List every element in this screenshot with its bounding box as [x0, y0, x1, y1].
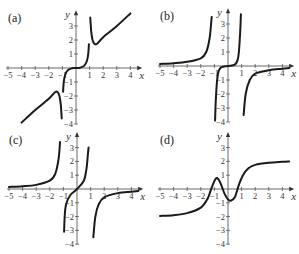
figure-canvas: −5−4−3−2−11234−4−3−2−1123xy(a) −5−4−3−2−…	[0, 0, 299, 254]
x-tick-label: 1	[239, 68, 243, 78]
x-tick-label: 1	[88, 191, 92, 201]
y-tick-label: 1	[70, 170, 74, 180]
x-tick-label: −5	[3, 70, 12, 80]
x-tick-label: −3	[183, 191, 192, 201]
y-tick-label: 3	[69, 21, 73, 31]
x-axis-label: x	[290, 67, 296, 79]
panel-label: (c)	[9, 133, 22, 147]
y-tick-label: −3	[216, 225, 225, 235]
x-tick-label: −3	[32, 191, 41, 201]
curve-left-branch	[160, 17, 212, 64]
x-tick-label: −5	[155, 68, 164, 78]
graph-panel-b: −5−4−3−2−11234−4−3−2−1123xy(b)	[155, 6, 296, 127]
y-axis-label: y	[216, 6, 222, 18]
y-tick-label: 2	[221, 33, 225, 43]
y-tick-label: 1	[221, 170, 225, 180]
x-tick-label: 1	[239, 191, 243, 201]
x-tick-label: −2	[45, 191, 54, 201]
x-tick-label: −4	[18, 191, 28, 201]
x-tick-label: −2	[196, 191, 205, 201]
x-tick-label: 4	[280, 191, 285, 201]
y-tick-label: 2	[69, 35, 73, 45]
y-tick-label: 3	[221, 143, 225, 153]
y-tick-label: −1	[64, 77, 73, 87]
y-axis-arrow-icon	[75, 132, 79, 137]
x-tick-label: 4	[128, 70, 133, 80]
y-tick-label: −4	[216, 117, 226, 127]
y-axis-arrow-icon	[226, 132, 230, 137]
y-axis-arrow-icon	[226, 8, 230, 13]
x-tick-label: −3	[31, 70, 40, 80]
y-tick-label: −4	[65, 239, 75, 249]
curve-left-branch	[22, 92, 62, 123]
x-tick-label: −2	[44, 70, 53, 80]
y-axis-arrow-icon	[74, 10, 78, 15]
x-tick-label: −2	[196, 68, 205, 78]
graph-panel-d: −5−4−3−2−11234−4−3−2−1123xy(d)	[155, 130, 296, 249]
y-axis-label: y	[216, 130, 222, 142]
y-tick-label: 1	[221, 47, 225, 57]
x-axis-label: x	[290, 190, 296, 202]
graph-panel-a: −5−4−3−2−11234−4−3−2−1123xy(a)	[3, 8, 144, 129]
x-axis-label: x	[138, 69, 144, 81]
panel-label: (a)	[8, 11, 21, 25]
y-tick-label: −2	[65, 212, 74, 222]
x-tick-label: 3	[267, 191, 271, 201]
y-tick-label: −1	[216, 198, 225, 208]
x-tick-label: −4	[169, 68, 179, 78]
curve-left-branch	[9, 142, 60, 187]
panel-label: (d)	[160, 133, 174, 147]
y-tick-label: −4	[64, 119, 74, 129]
y-tick-label: 1	[69, 49, 73, 59]
y-tick-label: −3	[216, 103, 225, 113]
y-tick-label: 3	[221, 19, 225, 29]
y-tick-label: 2	[70, 156, 74, 166]
y-tick-label: 3	[70, 143, 74, 153]
x-tick-label: 3	[115, 70, 119, 80]
x-axis-label: x	[139, 190, 145, 202]
y-axis-label: y	[65, 130, 71, 142]
x-tick-label: −5	[155, 191, 164, 201]
x-tick-label: 2	[101, 70, 105, 80]
x-tick-label: −5	[4, 191, 13, 201]
y-tick-label: 2	[221, 156, 225, 166]
graph-panel-c: −5−4−3−2−11234−4−3−2−1123xy(c)	[4, 130, 145, 249]
panel-label: (b)	[160, 9, 174, 23]
x-tick-label: −4	[169, 191, 179, 201]
y-tick-label: −2	[216, 212, 225, 222]
x-tick-label: −4	[17, 70, 27, 80]
y-tick-label: −4	[216, 239, 226, 249]
y-tick-label: −2	[64, 91, 73, 101]
x-tick-label: 2	[253, 191, 257, 201]
x-tick-label: −3	[183, 68, 192, 78]
x-tick-label: 1	[87, 70, 91, 80]
curve-right-branch	[90, 13, 130, 44]
y-axis-label: y	[64, 8, 70, 20]
y-tick-label: −3	[64, 105, 73, 115]
y-tick-label: −3	[65, 225, 74, 235]
